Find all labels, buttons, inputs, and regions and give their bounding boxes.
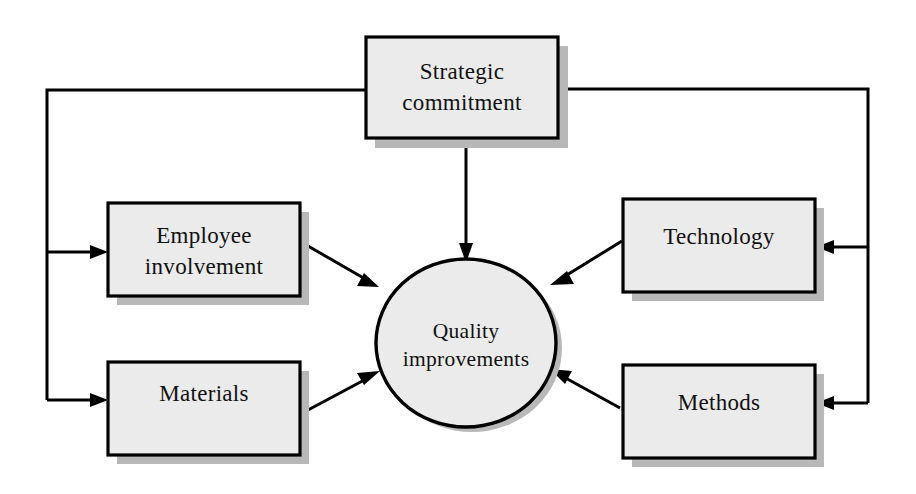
quality-improvements-shape <box>376 259 556 427</box>
arrowhead-to-employee-involvement <box>90 245 108 259</box>
methods-label-line1: Methods <box>678 390 761 415</box>
node-employee-involvement[interactable]: Employee involvement <box>108 203 309 305</box>
employee-involvement-label-line2: involvement <box>145 254 264 279</box>
connector-materials-to-quality <box>308 371 380 410</box>
diagram-canvas: Quality improvements Strategic commitmen… <box>0 0 916 494</box>
connector-strategic-to-quality <box>459 140 473 263</box>
quality-improvements-label-line1: Quality <box>433 319 500 343</box>
connector-employee-to-quality <box>308 246 379 287</box>
node-quality-improvements[interactable]: Quality improvements <box>376 259 562 432</box>
technology-label-line1: Technology <box>663 224 774 249</box>
strategic-commitment-label-line1: Strategic <box>420 59 504 84</box>
strategic-commitment-label-line2: commitment <box>402 90 522 115</box>
employee-involvement-shape <box>108 203 300 296</box>
arrowhead-to-materials <box>90 393 108 407</box>
strategic-commitment-shape <box>366 37 558 138</box>
connector-methods-to-quality <box>550 369 620 408</box>
node-strategic-commitment[interactable]: Strategic commitment <box>366 37 568 148</box>
connector-technology-to-quality <box>550 241 622 285</box>
node-methods[interactable]: Methods <box>623 365 824 467</box>
quality-improvements-label-line2: improvements <box>403 347 530 371</box>
node-materials[interactable]: Materials <box>108 362 309 464</box>
materials-label-line1: Materials <box>159 381 249 406</box>
employee-involvement-label-line1: Employee <box>156 223 252 248</box>
node-technology[interactable]: Technology <box>623 199 824 301</box>
materials-shape <box>108 362 300 455</box>
